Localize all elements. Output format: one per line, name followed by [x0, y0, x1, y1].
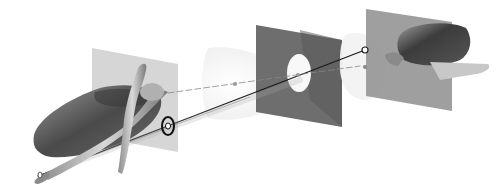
focus-point-marker — [362, 47, 368, 53]
ray-projection-illustration — [0, 0, 500, 195]
lens-tip — [38, 172, 42, 178]
